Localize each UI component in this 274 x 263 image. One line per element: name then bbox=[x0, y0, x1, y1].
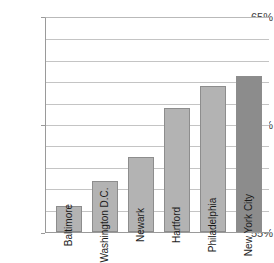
bar-label-baltimore: Baltimore bbox=[59, 204, 69, 246]
bar-label-washington-dc: Washington D.C. bbox=[95, 187, 105, 262]
bar-label-newark: Newark bbox=[131, 208, 141, 242]
bar-philadelphia[interactable]: Philadelphia bbox=[200, 86, 226, 232]
bars-layer: Baltimore Washington D.C. Newark Hartfor… bbox=[46, 18, 269, 232]
bar-washington-dc[interactable]: Washington D.C. bbox=[92, 181, 118, 232]
bar-label-hartford: Hartford bbox=[167, 207, 177, 243]
bar-new-york-city[interactable]: New York City bbox=[236, 76, 262, 232]
bar-label-philadelphia: Philadelphia bbox=[203, 198, 213, 253]
bar-newark[interactable]: Newark bbox=[128, 157, 154, 232]
y-axis-tick-55 bbox=[41, 233, 45, 234]
plot-area: Baltimore Washington D.C. Newark Hartfor… bbox=[45, 17, 269, 233]
bar-hartford[interactable]: Hartford bbox=[164, 108, 190, 232]
bar-baltimore[interactable]: Baltimore bbox=[56, 206, 82, 232]
bar-label-new-york-city: New York City bbox=[239, 194, 249, 256]
